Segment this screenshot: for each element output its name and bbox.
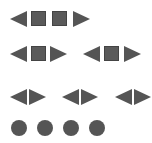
circle-icon — [37, 120, 53, 136]
triangle-right-icon — [73, 11, 90, 27]
circle-icon — [63, 120, 79, 136]
square-icon — [31, 11, 46, 26]
square-icon — [31, 46, 46, 61]
triangle-right-icon — [29, 89, 46, 105]
triangle-right-icon — [134, 89, 151, 105]
triangle-right-icon — [124, 46, 141, 62]
square-icon — [104, 46, 119, 61]
circle-icon — [11, 120, 27, 136]
triangle-left-icon — [62, 89, 79, 105]
triangle-right-icon — [50, 46, 67, 62]
triangle-left-icon — [10, 11, 27, 27]
triangle-left-icon — [83, 46, 100, 62]
triangle-right-icon — [81, 89, 98, 105]
triangle-left-icon — [10, 46, 27, 62]
circle-icon — [89, 120, 105, 136]
triangle-left-icon — [115, 89, 132, 105]
square-icon — [52, 11, 67, 26]
triangle-left-icon — [10, 89, 27, 105]
